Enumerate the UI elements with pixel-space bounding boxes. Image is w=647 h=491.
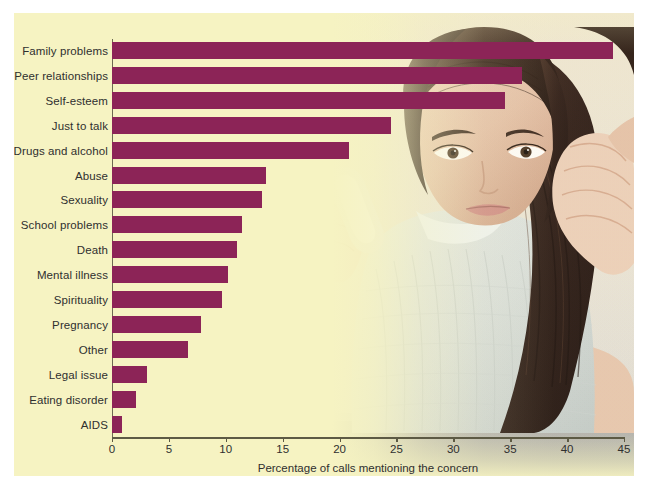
category-label-text: School problems	[14, 217, 108, 234]
x-axis-tick	[226, 437, 227, 442]
category-label: School problems	[14, 217, 108, 234]
bar	[112, 341, 188, 358]
x-axis-tick	[453, 437, 454, 442]
category-label: Mental illness	[14, 267, 108, 284]
x-axis-tick-label: 25	[390, 443, 403, 455]
x-axis-tick-label: 5	[166, 443, 172, 455]
category-label-text: AIDS	[14, 417, 108, 434]
x-axis-tick	[510, 437, 511, 442]
bar	[112, 117, 391, 134]
bar	[112, 42, 613, 59]
category-label: Eating disorder	[14, 392, 108, 409]
category-label-text: Family problems	[14, 43, 108, 60]
category-label: Just to talk	[14, 118, 108, 135]
category-label: Other	[14, 342, 108, 359]
bar	[112, 416, 122, 433]
category-label: Drugs and alcohol	[14, 143, 108, 160]
category-label: Family problems	[14, 43, 108, 60]
x-axis-tick	[567, 437, 568, 442]
x-axis-tick-label: 35	[504, 443, 517, 455]
bar-chart-plot: Family problemsPeer relationshipsSelf-es…	[14, 13, 634, 476]
chart-canvas: Family problemsPeer relationshipsSelf-es…	[14, 13, 634, 476]
category-label-text: Spirituality	[14, 292, 108, 309]
bar	[112, 241, 237, 258]
bar	[112, 291, 222, 308]
bar	[112, 191, 262, 208]
bar	[112, 92, 505, 109]
category-label-text: Pregnancy	[14, 317, 108, 334]
x-axis-tick	[340, 437, 341, 442]
category-label-text: Sexuality	[14, 192, 108, 209]
category-label: Peer relationships	[14, 68, 108, 85]
category-label: Sexuality	[14, 192, 108, 209]
category-label: AIDS	[14, 417, 108, 434]
category-label-text: Drugs and alcohol	[14, 143, 108, 160]
x-axis-tick-label: 10	[219, 443, 232, 455]
category-label: Self-esteem	[14, 93, 108, 110]
x-axis-tick-label: 40	[561, 443, 574, 455]
category-label: Legal issue	[14, 367, 108, 384]
category-label-text: Abuse	[14, 168, 108, 185]
category-label-text: Legal issue	[14, 367, 108, 384]
bar	[112, 167, 266, 184]
x-axis-tick-label: 30	[447, 443, 460, 455]
bar	[112, 216, 242, 233]
category-label-text: Self-esteem	[14, 93, 108, 110]
category-label: Spirituality	[14, 292, 108, 309]
category-label-text: Other	[14, 342, 108, 359]
x-axis-tick-label: 0	[109, 443, 115, 455]
bar	[112, 266, 228, 283]
x-axis-tick-label: 45	[618, 443, 631, 455]
category-label: Abuse	[14, 168, 108, 185]
bar	[112, 142, 349, 159]
x-axis-tick	[112, 437, 113, 442]
x-axis-tick	[283, 437, 284, 442]
x-axis-tick	[169, 437, 170, 442]
category-label-text: Death	[14, 242, 108, 259]
x-axis-tick-label: 15	[276, 443, 289, 455]
bar	[112, 316, 201, 333]
bar	[112, 67, 522, 84]
category-label-text: Mental illness	[14, 267, 108, 284]
chart-figure: Family problemsPeer relationshipsSelf-es…	[0, 0, 647, 491]
bar	[112, 391, 136, 408]
bar	[112, 366, 147, 383]
x-axis-label: Percentage of calls mentioning the conce…	[112, 462, 624, 474]
category-label-text: Eating disorder	[14, 392, 108, 409]
x-axis-tick	[396, 437, 397, 442]
x-axis-line	[112, 437, 624, 439]
category-label-text: Just to talk	[14, 118, 108, 135]
category-label: Pregnancy	[14, 317, 108, 334]
category-label: Death	[14, 242, 108, 259]
x-axis-tick-label: 20	[333, 443, 346, 455]
category-label-text: Peer relationships	[14, 68, 108, 85]
x-axis-tick	[624, 437, 625, 442]
